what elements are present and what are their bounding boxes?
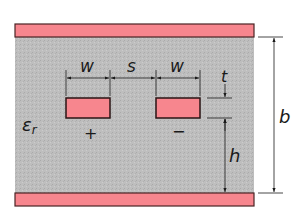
stripline-diagram: w s w t h b εr + − xyxy=(0,0,296,220)
label-positive: + xyxy=(84,124,97,143)
label-b: b xyxy=(279,106,290,127)
right-conductor-strip xyxy=(156,98,200,118)
bottom-ground-plane xyxy=(15,193,254,206)
label-negative: − xyxy=(172,122,185,141)
top-ground-plane xyxy=(15,24,254,37)
label-s: s xyxy=(127,56,136,76)
label-h: h xyxy=(229,145,240,166)
label-w-right: w xyxy=(170,56,184,76)
label-w-left: w xyxy=(80,56,94,76)
left-conductor-strip xyxy=(66,98,110,118)
label-t: t xyxy=(221,67,228,86)
